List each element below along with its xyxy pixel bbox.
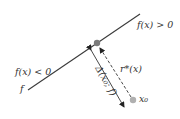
perturbation-label: r*(x) <box>120 63 142 74</box>
boundary-label: f <box>19 83 25 94</box>
decision-boundary-diagram: f(x) > 0 f(x) < 0 f r*(x) Δ(x₀; f) x₀ <box>0 0 180 119</box>
region-positive-label: f(x) > 0 <box>136 19 173 30</box>
point-label-x0: x₀ <box>139 93 148 104</box>
decision-boundary-line <box>28 14 140 90</box>
diagram-canvas: f(x) > 0 f(x) < 0 f r*(x) Δ(x₀; f) x₀ <box>0 0 180 119</box>
data-point-x0 <box>130 97 136 103</box>
region-negative-label: f(x) < 0 <box>14 66 51 77</box>
projection-point <box>94 40 100 46</box>
distance-label: Δ(x₀; f) <box>93 63 120 98</box>
